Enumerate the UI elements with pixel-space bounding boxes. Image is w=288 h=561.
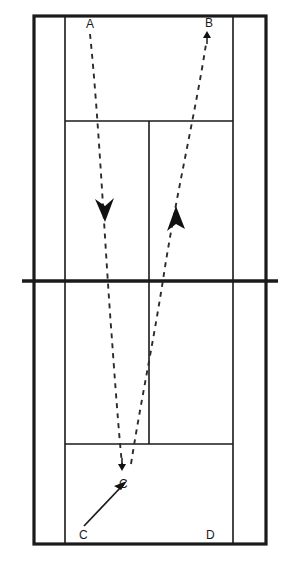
court-diagram: A B C C D <box>0 0 288 561</box>
label-c-landing: C <box>119 478 128 490</box>
shuttle-path-a-to-c <box>90 34 122 464</box>
arrowhead-up-mid <box>167 206 185 231</box>
arrowhead-up-end <box>203 31 211 44</box>
arrowhead-down-mid <box>95 198 114 222</box>
label-b: B <box>205 17 213 29</box>
label-a: A <box>86 18 94 30</box>
arrowhead-down-end <box>118 458 126 471</box>
label-d: D <box>206 529 215 541</box>
shuttle-path-c-to-b <box>131 44 206 464</box>
court-svg <box>0 0 288 561</box>
label-c-origin: C <box>79 529 88 541</box>
